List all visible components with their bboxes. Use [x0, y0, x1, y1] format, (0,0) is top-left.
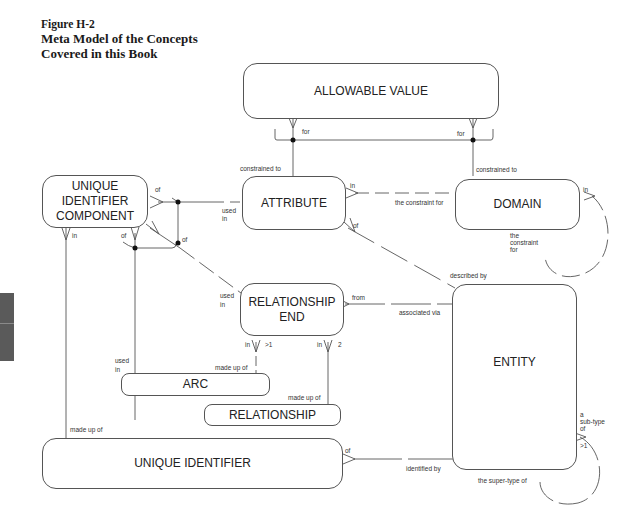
av-for-left: for	[302, 128, 310, 136]
entity-relationship-end[interactable]: RELATIONSHIP END	[240, 283, 344, 336]
attr-in: in	[350, 182, 355, 190]
ui-made-up-of: made up of	[70, 426, 103, 434]
attr-constrained-to: constrained to	[240, 165, 281, 173]
entity-arc[interactable]: ARC	[121, 373, 270, 396]
arc-label: ARC	[183, 377, 208, 392]
re-used-1: used	[220, 292, 234, 300]
uic-of-left: of	[121, 232, 126, 240]
entity-attribute[interactable]: ATTRIBUTE	[242, 176, 346, 230]
ui-of: of	[345, 447, 350, 455]
entity-unique-identifier[interactable]: UNIQUE IDENTIFIER	[42, 438, 343, 489]
domain-constrained-to: constrained to	[476, 166, 517, 174]
entity-relationship[interactable]: RELATIONSHIP	[204, 404, 341, 426]
subtype-gt1: >1	[580, 442, 587, 450]
entity-domain[interactable]: DOMAIN	[455, 179, 580, 230]
arc-made-up-of: made up of	[215, 364, 248, 372]
arc-used-2: in	[115, 366, 120, 374]
re-from: from	[352, 294, 365, 302]
constraint-for: the constraint for	[395, 199, 443, 207]
attr-used-in-1: used	[222, 207, 236, 215]
uic-of-top: of	[155, 186, 160, 194]
uic-in: in	[72, 232, 77, 240]
domain-in: in	[583, 186, 588, 194]
relationship-end-line1: RELATIONSHIP	[248, 295, 335, 310]
supertype-of: the super-type of	[478, 477, 527, 485]
re-used-2: in	[220, 301, 225, 309]
described-by: described by	[450, 272, 487, 280]
attr-used-in-2: in	[222, 215, 227, 223]
entity-allowable-value[interactable]: ALLOWABLE VALUE	[243, 63, 499, 119]
attr-of: of	[353, 222, 358, 230]
entity-unique-identifier-component[interactable]: UNIQUE IDENTIFIER COMPONENT	[42, 175, 148, 228]
rel-made-up-of: made up of	[288, 394, 321, 402]
uic-label-line1: UNIQUE	[56, 179, 134, 194]
uic-label-line3: COMPONENT	[56, 209, 134, 224]
re-gt1: >1	[265, 341, 272, 349]
re-in-right: in	[317, 341, 322, 349]
av-for-right: for	[457, 130, 465, 138]
relationship-label: RELATIONSHIP	[229, 408, 316, 423]
identified-by: identified by	[406, 465, 441, 473]
uic-label-line2: IDENTIFIER	[56, 194, 134, 209]
entity-entity[interactable]: ENTITY	[452, 284, 577, 470]
arc-used-1: used	[115, 357, 129, 365]
domain-constraint-3: for	[510, 246, 518, 254]
relationship-end-line2: END	[248, 310, 335, 325]
associated-via: associated via	[399, 309, 440, 317]
uic-of-arc: of	[182, 236, 187, 244]
unique-identifier-label: UNIQUE IDENTIFIER	[134, 456, 251, 471]
domain-label: DOMAIN	[494, 197, 542, 212]
entity-label: ENTITY	[493, 355, 536, 370]
re-2: 2	[338, 341, 342, 349]
subtype-3: of	[580, 425, 585, 433]
allowable-value-label: ALLOWABLE VALUE	[314, 84, 428, 99]
re-in-left: in	[245, 341, 250, 349]
attribute-label: ATTRIBUTE	[261, 196, 327, 211]
